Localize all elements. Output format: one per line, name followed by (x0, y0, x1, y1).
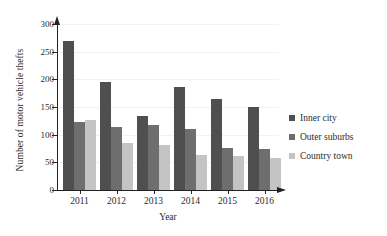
bar (74, 122, 85, 190)
y-axis-line (57, 24, 58, 190)
x-tick-label: 2016 (245, 196, 285, 206)
bar (148, 125, 159, 190)
y-tick-label: 200 (41, 74, 55, 84)
legend-swatch-icon (289, 115, 295, 121)
x-tick-label: 2014 (171, 196, 211, 206)
bar (111, 127, 122, 190)
bar (174, 87, 185, 190)
bar-group (248, 18, 281, 190)
y-tick-label: 50 (45, 157, 54, 167)
bar-group (100, 18, 133, 190)
bar (222, 148, 233, 190)
x-axis-arrow-icon (277, 187, 286, 193)
bar (159, 145, 170, 190)
x-tick-mark (265, 190, 266, 194)
plot-area: 050100150200250300 201120122013201420152… (57, 18, 285, 190)
x-tick-label: 2015 (208, 196, 248, 206)
y-axis-title: Number of motor vehicle thefts (15, 20, 25, 200)
x-tick-mark (191, 190, 192, 194)
legend-swatch-icon (289, 134, 295, 140)
legend-label: Inner city (300, 113, 337, 123)
y-tick-label: 250 (41, 47, 55, 57)
bar (196, 155, 207, 190)
bar-chart-figure: Number of motor vehicle thefts 050100150… (0, 0, 387, 236)
legend: Inner cityOuter suburbsCountry town (289, 108, 385, 165)
x-tick-label: 2011 (60, 196, 100, 206)
legend-item: Inner city (289, 108, 385, 127)
y-tick-label: 300 (41, 19, 55, 29)
bar (259, 149, 270, 190)
x-tick-mark (80, 190, 81, 194)
legend-label: Outer suburbs (300, 132, 354, 142)
x-axis-line (57, 190, 279, 191)
legend-item: Country town (289, 146, 385, 165)
bar (185, 129, 196, 190)
x-tick-mark (117, 190, 118, 194)
legend-swatch-icon (289, 153, 295, 159)
bar (122, 143, 133, 190)
bar (85, 120, 96, 190)
bar (248, 107, 259, 190)
bar (137, 116, 148, 190)
x-tick-mark (154, 190, 155, 194)
bar-group (174, 18, 207, 190)
bar (211, 99, 222, 190)
bar (63, 41, 74, 190)
bar (233, 156, 244, 190)
x-tick-label: 2013 (134, 196, 174, 206)
x-tick-mark (228, 190, 229, 194)
y-tick-label: 150 (41, 102, 55, 112)
legend-item: Outer suburbs (289, 127, 385, 146)
legend-label: Country town (300, 151, 353, 161)
bar (270, 158, 281, 190)
y-tick-label: 100 (41, 130, 55, 140)
x-axis-title: Year (57, 212, 279, 222)
bar-group (137, 18, 170, 190)
y-tick-label: 0 (50, 185, 55, 195)
x-tick-label: 2012 (97, 196, 137, 206)
bar-group (211, 18, 244, 190)
bar (100, 82, 111, 190)
bar-group (63, 18, 96, 190)
